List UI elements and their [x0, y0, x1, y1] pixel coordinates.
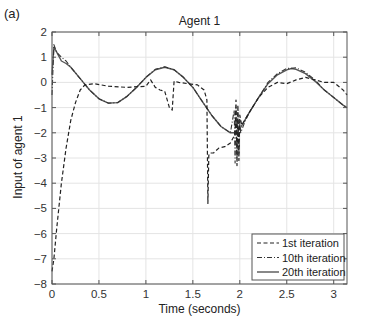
legend-label: 1st iteration — [282, 237, 339, 249]
legend: 1st iteration10th iteration20th iteratio… — [252, 234, 346, 280]
x-tick-label: 2.5 — [279, 288, 295, 300]
y-tick-label: −8 — [34, 278, 47, 290]
y-tick-label: −5 — [34, 202, 47, 214]
series-line — [52, 47, 347, 133]
x-tick-label: 1.5 — [185, 288, 201, 300]
y-tick-label: −4 — [34, 177, 48, 189]
legend-label: 10th iteration — [282, 252, 346, 264]
y-tick-label: −7 — [34, 253, 47, 265]
x-tick-label: 0 — [49, 288, 55, 300]
plot-area: 00.511.522.53210−1−2−3−4−5−6−7−8 1st ite… — [0, 0, 365, 330]
series-line — [52, 45, 347, 163]
y-tick-label: −3 — [34, 152, 47, 164]
x-tick-label: 1 — [143, 288, 149, 300]
y-tick-label: −6 — [34, 228, 47, 240]
y-tick-label: 2 — [41, 26, 47, 38]
x-tick-label: 0.5 — [91, 288, 107, 300]
legend-label: 20th iteration — [282, 266, 346, 278]
x-tick-label: 3 — [331, 288, 337, 300]
y-tick-label: −1 — [34, 102, 47, 114]
x-tick-label: 2 — [237, 288, 243, 300]
y-tick-label: 0 — [41, 76, 47, 88]
y-tick-label: 1 — [41, 51, 47, 63]
y-tick-label: −2 — [34, 127, 47, 139]
